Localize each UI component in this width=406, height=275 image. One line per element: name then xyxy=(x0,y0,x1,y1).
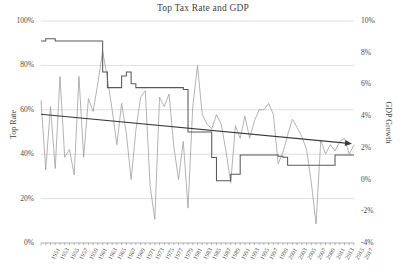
x-axis-line xyxy=(41,243,354,245)
series-gdp-growth-line xyxy=(41,51,354,224)
series-trendline xyxy=(41,114,352,146)
plot-area xyxy=(0,0,406,275)
chart-container: Top Tax Rate and GDP Top Rate GDP Growth… xyxy=(0,0,406,275)
